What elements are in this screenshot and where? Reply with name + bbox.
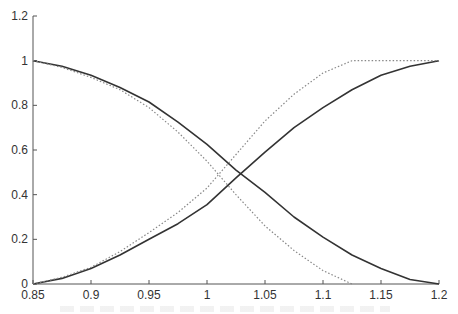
x-tick-label: 1.1 xyxy=(315,288,332,302)
y-tick-label: 0.2 xyxy=(11,232,28,246)
x-tick-label: 0.85 xyxy=(21,288,45,302)
series-dotted-increasing xyxy=(33,61,439,284)
y-tick-label: 1.2 xyxy=(11,9,28,23)
series-dotted-decreasing xyxy=(33,61,352,284)
x-tick-label: 1.05 xyxy=(253,288,277,302)
series-solid-increasing xyxy=(33,61,439,284)
x-tick-label: 1.2 xyxy=(431,288,448,302)
series-solid-decreasing xyxy=(33,61,439,284)
y-tick-label: 0.6 xyxy=(11,143,28,157)
y-tick-label: 1 xyxy=(21,54,28,68)
figure-caption-cropped xyxy=(60,306,390,312)
x-tick-label: 1 xyxy=(204,288,211,302)
x-tick-label: 0.9 xyxy=(83,288,100,302)
y-tick-label: 0.8 xyxy=(11,98,28,112)
y-axis: 00.20.40.60.811.2 xyxy=(11,9,37,291)
y-tick-label: 0.4 xyxy=(11,188,28,202)
x-tick-label: 1.15 xyxy=(369,288,393,302)
line-chart: 00.20.40.60.811.2 0.850.90.9511.051.11.1… xyxy=(0,0,458,314)
x-tick-label: 0.95 xyxy=(137,288,161,302)
plot-area xyxy=(33,61,439,284)
x-axis: 0.850.90.9511.051.11.151.2 xyxy=(21,280,447,302)
